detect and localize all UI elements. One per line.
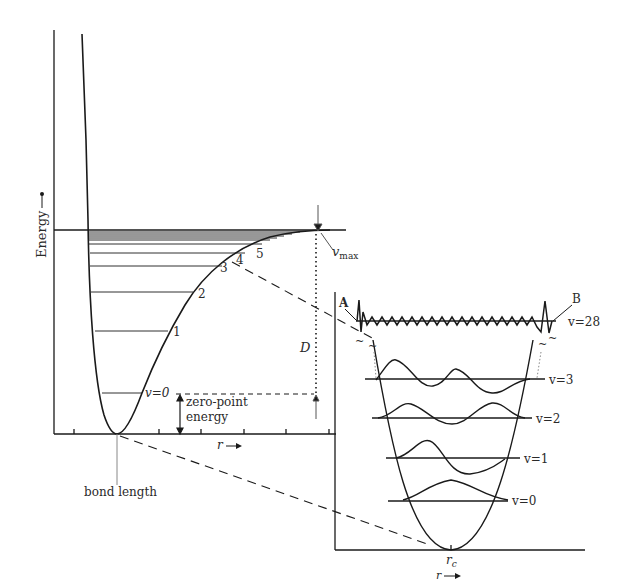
level-label-4: 4 <box>236 253 244 267</box>
equilibrium-label: rc <box>446 553 457 569</box>
energy-axis-label: Energy <box>34 192 49 258</box>
turning-point-b: B <box>572 292 581 306</box>
svg-text:r: r <box>436 569 442 582</box>
inset-label-v1: v=1 <box>523 452 548 466</box>
zero-point-label-1: zero-point <box>186 395 248 409</box>
wavefunction-v3 <box>376 360 530 393</box>
level-label-3: 3 <box>220 261 228 275</box>
turning-dotted <box>374 352 541 378</box>
svg-text:~: ~ <box>548 332 557 345</box>
inset-label-v3: v=3 <box>548 373 573 387</box>
level-label-1: 1 <box>173 325 181 339</box>
zero-point-label-2: energy <box>186 410 228 424</box>
wavefunction-v2 <box>378 403 525 424</box>
inset-r-axis-label: r <box>436 569 461 582</box>
zero-point-arrow <box>177 395 183 434</box>
svg-text:~: ~ <box>368 340 377 353</box>
inset-label-v28: v=28 <box>567 315 600 329</box>
zoom-dashed-lower <box>120 436 430 545</box>
vmax-arrow <box>314 205 333 250</box>
break-marks: ~ ~ ~ ~ <box>355 332 557 353</box>
svg-text:~: ~ <box>538 338 547 351</box>
inset-label-v2: v=2 <box>535 412 560 426</box>
level-label-2: 2 <box>198 287 206 301</box>
turning-point-a: A <box>338 296 349 310</box>
a-pointer <box>345 309 357 321</box>
level-label-v0: v=0 <box>145 386 170 400</box>
inset-label-v0: v=0 <box>511 494 536 508</box>
wavefunction-v1 <box>396 440 505 474</box>
d-label: D <box>299 340 311 355</box>
bond-length-label: bond length <box>84 485 157 499</box>
wavefunction-v28 <box>357 300 552 333</box>
dense-levels <box>89 232 300 393</box>
svg-text:r: r <box>217 438 224 452</box>
morse-diagram: Energy v=0 1 2 3 4 5 vmax D zero-point e… <box>0 0 628 585</box>
r-axis-label: r <box>217 438 242 452</box>
wavefunction-v0 <box>403 480 508 500</box>
svg-text:~: ~ <box>355 335 364 348</box>
svg-text:Energy: Energy <box>34 210 49 258</box>
level-label-5: 5 <box>256 247 264 261</box>
d-lower-arrow <box>313 395 319 419</box>
zoom-dashed-upper <box>232 262 372 338</box>
inset-parabola <box>373 340 533 550</box>
vmax-label: vmax <box>332 244 358 261</box>
